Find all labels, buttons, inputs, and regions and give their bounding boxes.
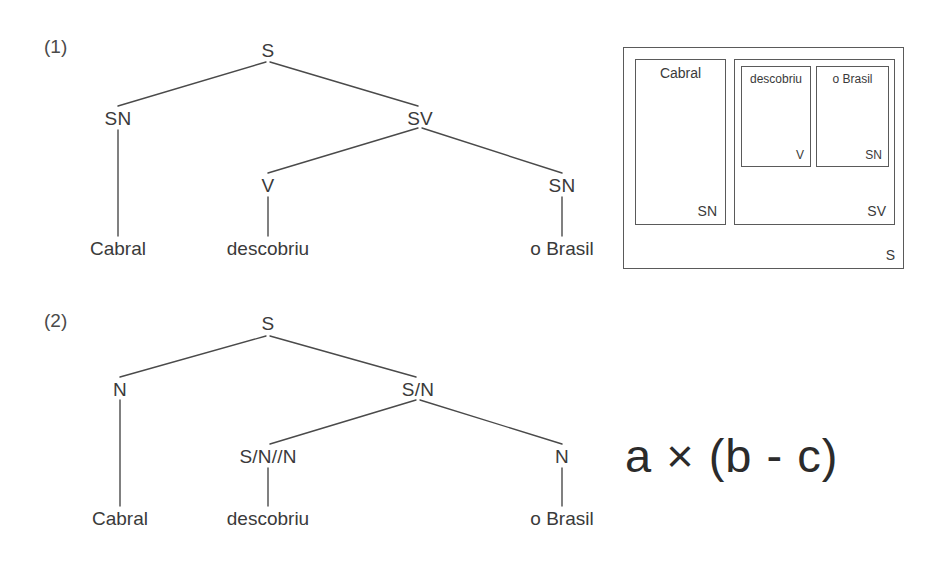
box-subject-sn: Cabral SN [635,59,726,225]
box-predicate-sv: descobriu V o Brasil SN SV [734,59,895,225]
tree1-edge-s-sn [118,62,266,106]
tree1-edge-s-sv [270,62,418,106]
tree1-node-v: V [262,176,275,195]
tree1-leaf-cabral: Cabral [90,239,146,258]
tree2-leaf-descobriu: descobriu [227,509,309,528]
tree2-leaf-o-brasil: o Brasil [530,509,593,528]
box-object-sn: o Brasil SN [816,66,889,167]
tree1-leaf-descobriu: descobriu [227,239,309,258]
tree1-node-sv: SV [407,109,433,128]
tree1-leaf-o-brasil: o Brasil [530,239,593,258]
tree2-node-s-slash-n-slashslash-n: S/N//N [239,447,296,466]
tree2-node-n-object: N [555,447,569,466]
tree1-edge-sv-v [268,128,418,173]
tree1-edge-sv-sn [422,128,562,173]
tree2-node-s: S [262,314,275,333]
tree1-node-sn-object: SN [549,176,576,195]
box-predicate-category: SV [867,204,886,219]
example-number-2: (2) [44,311,67,330]
box-diagram-outer-s: Cabral SN descobriu V o Brasil SN SV S [623,47,904,269]
tree2-leaf-cabral: Cabral [92,509,148,528]
tree2-node-n-subject: N [113,380,127,399]
example-number-1: (1) [44,37,67,56]
box-verb-category: V [796,149,804,162]
box-subject-word: Cabral [636,66,725,81]
tree2-node-s-slash-n: S/N [402,380,434,399]
box-outer-category: S [886,248,895,263]
box-object-word: o Brasil [817,73,888,86]
arithmetic-formula: a × (b - c) [625,432,838,479]
tree2-edge-sn-snn [270,400,416,444]
box-object-category: SN [865,149,882,162]
diagram-canvas: (1) (2) S SN SV V SN Cabral descobriu o … [0,0,933,564]
tree1-node-s: S [262,41,275,60]
tree1-node-sn-subject: SN [105,109,132,128]
tree2-edge-s-n [120,336,266,377]
box-verb-word: descobriu [742,73,810,86]
box-subject-category: SN [698,204,717,219]
tree2-edge-sn-n [420,400,562,444]
box-verb-v: descobriu V [741,66,811,167]
tree2-edge-s-sn [270,336,416,377]
